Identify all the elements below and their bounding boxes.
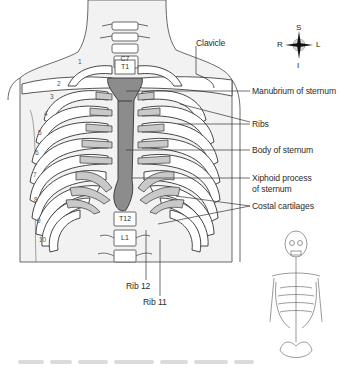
thoracic-cage-diagram: C7 T1 T12 L1 1 2 3 4 5 6 7 8 9 10 Clavic… [0, 0, 353, 369]
label-rib-12: Rib 12 [126, 281, 150, 291]
label-costal-cartilages: Costal cartilages [252, 201, 314, 211]
rib-number-7: 7 [33, 171, 37, 178]
rib-number-10: 10 [39, 236, 46, 243]
label-rib-11: Rib 11 [143, 297, 167, 307]
compass-rose [285, 31, 313, 59]
label-manubrium: Manubrium of sternum [252, 86, 336, 96]
vertebra-label-t1: T1 [115, 63, 135, 71]
rib-number-9: 9 [37, 217, 41, 224]
rib-number-1: 1 [78, 58, 82, 65]
rib-number-4: 4 [44, 110, 48, 117]
skeleton-inset [270, 231, 322, 358]
compass-left: L [316, 40, 320, 49]
ribcage-illustration [0, 0, 353, 369]
vertebra-label-t12: T12 [115, 215, 135, 223]
vertebra-label-c7: C7 [115, 55, 135, 63]
rib-number-3: 3 [50, 93, 54, 100]
label-xiphoid-line2: of sternum [252, 184, 292, 194]
rib-number-8: 8 [34, 196, 38, 203]
compass-inferior: I [297, 61, 299, 70]
rib-number-6: 6 [35, 149, 39, 156]
label-xiphoid-line1: Xiphoid process [252, 173, 312, 183]
compass-right: R [277, 40, 283, 49]
label-clavicle: Clavicle [196, 38, 225, 48]
label-body-of-sternum: Body of sternum [252, 145, 313, 155]
rib-number-2: 2 [57, 80, 61, 87]
compass-superior: S [296, 23, 301, 32]
figure-caption-cutoff [18, 360, 258, 365]
vertebra-label-l1: L1 [115, 234, 135, 242]
label-ribs: Ribs [252, 119, 269, 129]
rib-number-5: 5 [38, 129, 42, 136]
